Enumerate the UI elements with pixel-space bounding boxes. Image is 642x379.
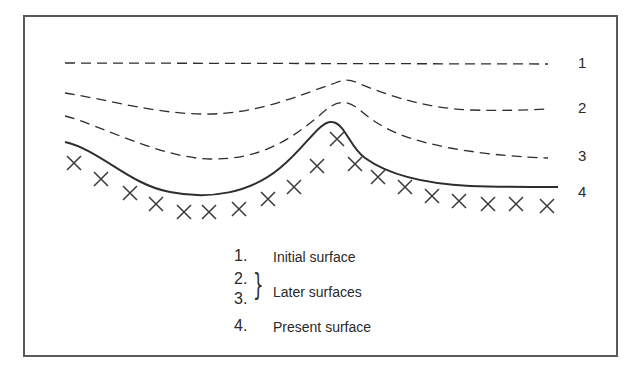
surface-2-line bbox=[65, 80, 548, 114]
legend-num-1: 1. bbox=[234, 248, 247, 264]
surface-4-line bbox=[65, 122, 558, 195]
surface-1-label: 1 bbox=[578, 55, 586, 70]
legend-num-3: 3. bbox=[234, 291, 247, 307]
surface-2-label: 2 bbox=[578, 100, 586, 115]
substrate-x-markers bbox=[67, 132, 554, 219]
legend-text-initial: Initial surface bbox=[273, 250, 355, 264]
legend-text-present: Present surface bbox=[273, 320, 371, 334]
legend-brace: } bbox=[253, 270, 264, 300]
surface-4-label: 4 bbox=[578, 184, 586, 199]
legend-text-later: Later surfaces bbox=[273, 285, 362, 299]
legend-num-4: 4. bbox=[234, 318, 247, 334]
surface-1-line bbox=[65, 63, 548, 64]
legend-num-2: 2. bbox=[234, 271, 247, 287]
surface-3-line bbox=[65, 103, 548, 160]
surface-3-label: 3 bbox=[578, 148, 586, 163]
